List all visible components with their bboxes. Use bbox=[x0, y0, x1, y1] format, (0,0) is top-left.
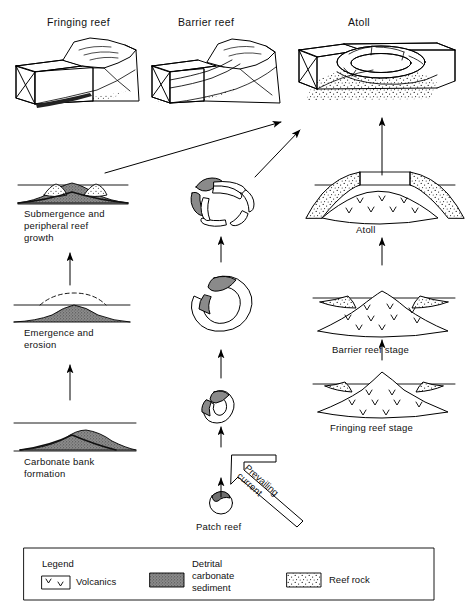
legend-swatch-volcanics bbox=[42, 576, 70, 589]
label-atoll-stage: Atoll bbox=[356, 224, 375, 236]
patch-stage-horseshoe-art bbox=[191, 276, 252, 331]
stage-emergence-art bbox=[14, 293, 130, 322]
column-header-fringing-reef: Fringing reef bbox=[47, 16, 110, 28]
arrow-patch-to-atoll bbox=[255, 130, 300, 177]
patch-stage-ring-art bbox=[191, 178, 254, 226]
stage-submergence-art bbox=[18, 183, 128, 204]
column-header-atoll: Atoll bbox=[348, 16, 370, 28]
label-fringing-reef-stage: Fringing reef stage bbox=[330, 422, 413, 434]
patch-stage-crescent-art bbox=[202, 391, 234, 423]
diagram-artwork bbox=[0, 0, 468, 610]
legend-swatch-detrital-carbonate bbox=[150, 573, 184, 587]
column-header-barrier-reef: Barrier reef bbox=[178, 16, 234, 28]
label-barrier-reef-stage: Barrier reef stage bbox=[332, 344, 409, 356]
legend-label-detrital-carbonate: Detrital carbonate sediment bbox=[192, 558, 234, 594]
legend-swatch-reef-rock bbox=[287, 573, 321, 587]
legend-label-reef-rock: Reef rock bbox=[329, 574, 370, 586]
legend-label-volcanics: Volcanics bbox=[76, 576, 116, 588]
fringing-reef-block-art bbox=[16, 38, 139, 108]
label-prevailing-current: Prevailing current bbox=[235, 462, 281, 506]
legend-title: Legend bbox=[42, 558, 74, 570]
label-patch-reef: Patch reef bbox=[196, 521, 241, 533]
volcanic-stage-fringing-art bbox=[313, 372, 455, 418]
atoll-block-art bbox=[299, 43, 455, 100]
figure-canvas: Fringing reef Barrier reef Atoll bbox=[0, 0, 468, 610]
patch-reef-art bbox=[210, 492, 233, 515]
volcanic-stage-atoll-art bbox=[306, 172, 464, 224]
label-carbonate-bank-stage: Carbonate bank formation bbox=[24, 456, 94, 480]
volcanic-stage-barrier-art bbox=[313, 291, 455, 337]
arrow-bank-to-atoll bbox=[105, 122, 281, 173]
label-emergence-stage: Emergence and erosion bbox=[24, 327, 94, 351]
barrier-reef-block-art bbox=[152, 39, 280, 103]
stage-carbonate-bank-art bbox=[14, 423, 136, 451]
label-submergence-stage: Submergence and peripheral reef growth bbox=[24, 208, 105, 244]
